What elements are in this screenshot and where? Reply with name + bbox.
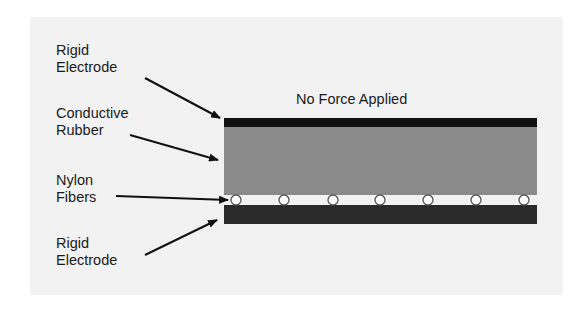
arrow-top-electrode (145, 78, 220, 118)
arrow-nylon-fibers (116, 196, 228, 200)
fiber (279, 195, 289, 205)
sensor-cross-section (0, 0, 581, 310)
arrow-conductive-rubber (130, 135, 218, 160)
fiber (375, 195, 385, 205)
conductive-rubber (224, 127, 537, 195)
fiber (328, 195, 338, 205)
arrow-bottom-electrode (145, 220, 217, 255)
fiber (423, 195, 433, 205)
top-electrode (224, 118, 537, 127)
fiber (471, 195, 481, 205)
bottom-electrode (224, 205, 537, 224)
nylon-fibers (231, 195, 529, 205)
fiber (231, 195, 241, 205)
fiber (519, 195, 529, 205)
